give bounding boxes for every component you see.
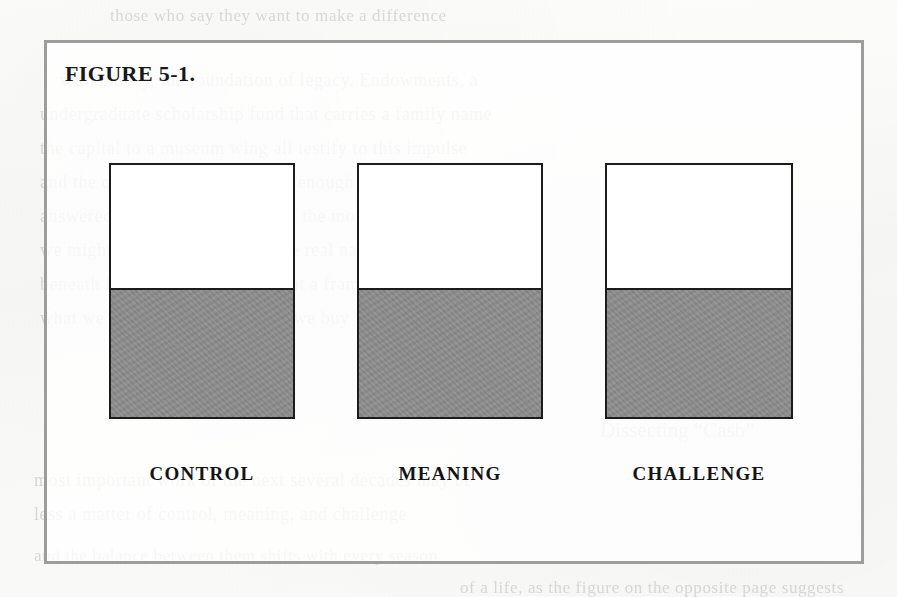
bar-fill-meaning: [359, 288, 541, 417]
bar-fill-control: [111, 288, 293, 417]
bar-control: [109, 163, 295, 419]
bar-group-challenge: CHALLENGE: [605, 163, 793, 485]
bar-chart: CONTROL MEANING CHALLENGE: [47, 43, 861, 561]
figure-frame: FIGURE 5-1. CONTROL MEANING CHALLENGE: [44, 40, 864, 564]
bar-fill-challenge: [607, 288, 791, 417]
bar-label-meaning: MEANING: [357, 463, 543, 485]
ghost-line: of a life, as the figure on the opposite…: [460, 578, 844, 597]
scanned-page: those who say they want to make a differ…: [0, 0, 897, 597]
ghost-line: those who say they want to make a differ…: [110, 6, 447, 26]
bar-meaning: [357, 163, 543, 419]
bar-challenge: [605, 163, 793, 419]
bar-label-challenge: CHALLENGE: [605, 463, 793, 485]
bar-label-control: CONTROL: [109, 463, 295, 485]
bar-group-control: CONTROL: [109, 163, 295, 485]
bar-group-meaning: MEANING: [357, 163, 543, 485]
